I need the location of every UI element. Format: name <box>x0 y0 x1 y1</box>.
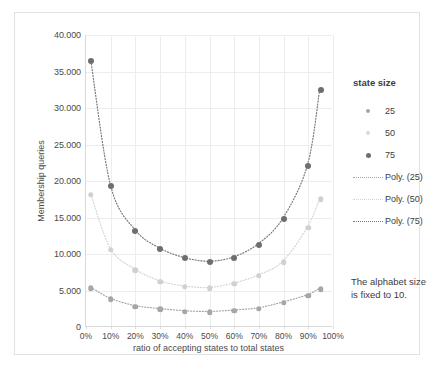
x-axis-tick-mark <box>111 326 112 329</box>
data-point <box>88 286 94 292</box>
data-point <box>306 293 312 299</box>
legend-entry[interactable]: 25 <box>351 100 431 122</box>
data-point <box>231 308 237 314</box>
y-axis-tick-label: 15.000 <box>54 213 81 223</box>
legend-marker-icon <box>351 153 385 158</box>
data-point <box>318 286 324 292</box>
x-axis-tick-mark <box>160 326 161 329</box>
x-axis-tick-mark <box>185 326 186 329</box>
data-point <box>207 310 213 316</box>
data-point <box>88 58 94 64</box>
x-axis-tick-mark <box>308 326 309 329</box>
legend-entry[interactable]: 75 <box>351 144 431 166</box>
legend: state size 255075Poly. (25)Poly. (50)Pol… <box>351 77 431 232</box>
data-point <box>182 309 188 315</box>
trendline-50 <box>91 194 320 287</box>
data-point <box>306 225 312 231</box>
x-axis-tick-mark <box>259 326 260 329</box>
y-axis-tick-label: 5.000 <box>59 286 81 296</box>
x-axis-tick-label: 80% <box>275 331 292 341</box>
x-axis-tick-label: 0% <box>80 331 92 341</box>
legend-marker-icon <box>351 131 385 136</box>
data-point <box>132 228 138 234</box>
x-axis-tick-label: 40% <box>176 331 193 341</box>
legend-line-icon <box>351 199 385 200</box>
data-point <box>157 279 163 285</box>
y-axis-tick-label: 35.000 <box>54 67 81 77</box>
legend-entry[interactable]: Poly. (25) <box>351 166 431 188</box>
data-point <box>108 183 114 189</box>
x-axis-tick-mark <box>234 326 235 329</box>
x-axis-tick-label: 10% <box>102 331 119 341</box>
data-point <box>182 284 188 290</box>
y-axis-tick-label: 10.000 <box>54 249 81 259</box>
data-point <box>281 300 287 306</box>
data-point <box>256 306 262 312</box>
legend-entry[interactable]: 50 <box>351 122 431 144</box>
legend-entries: 255075Poly. (25)Poly. (50)Poly. (75) <box>351 100 431 232</box>
x-axis-tick-label: 20% <box>127 331 144 341</box>
gridline-vertical <box>333 35 334 326</box>
x-axis-tick-label: 70% <box>250 331 267 341</box>
data-point <box>182 255 188 261</box>
trendline-75 <box>91 61 320 261</box>
legend-marker-icon <box>351 109 385 114</box>
data-point <box>305 163 311 169</box>
data-point <box>157 246 163 252</box>
legend-entry-label: 25 <box>385 106 395 116</box>
data-point <box>207 286 213 292</box>
annotation-text: The alphabet size is fixed to 10. <box>351 275 429 301</box>
legend-line-icon <box>351 221 385 222</box>
data-point <box>157 307 163 313</box>
data-point <box>133 267 139 273</box>
x-axis-title: ratio of accepting states to total state… <box>85 343 332 353</box>
data-point <box>108 297 114 303</box>
y-axis-tick-label: 30.000 <box>54 103 81 113</box>
legend-title: state size <box>351 77 431 88</box>
data-point <box>281 259 287 265</box>
data-point <box>108 247 114 253</box>
data-point <box>281 216 287 222</box>
x-axis-tick-mark <box>135 326 136 329</box>
trendline-layer <box>86 35 332 326</box>
y-axis-tick-label: 20.000 <box>54 176 81 186</box>
data-point <box>207 259 213 265</box>
legend-entry-label: Poly. (75) <box>385 216 423 226</box>
trendline-25 <box>91 287 320 311</box>
x-axis-tick-label: 50% <box>201 331 218 341</box>
legend-entry-label: Poly. (50) <box>385 194 423 204</box>
x-axis-tick-mark <box>86 326 87 329</box>
legend-entry-label: 75 <box>385 150 395 160</box>
x-axis-tick-label: 30% <box>152 331 169 341</box>
data-point <box>256 273 262 279</box>
data-point <box>318 197 324 203</box>
x-axis-tick-mark <box>284 326 285 329</box>
y-axis-title: Membership queries <box>36 140 46 222</box>
data-point <box>256 242 262 248</box>
data-point <box>318 87 324 93</box>
data-point <box>88 192 94 198</box>
plot-area: 05.00010.00015.00020.00025.00030.00035.0… <box>85 35 332 327</box>
x-axis-tick-mark <box>210 326 211 329</box>
x-axis-tick-label: 100% <box>322 331 344 341</box>
data-point <box>231 281 237 287</box>
data-point <box>231 255 237 261</box>
legend-entry-label: 50 <box>385 128 395 138</box>
x-axis-tick-mark <box>333 326 334 329</box>
x-axis-tick-label: 60% <box>226 331 243 341</box>
legend-entry[interactable]: Poly. (75) <box>351 210 431 232</box>
chart-container: Membership queries 05.00010.00015.00020.… <box>14 12 420 355</box>
legend-entry[interactable]: Poly. (50) <box>351 188 431 210</box>
x-axis-tick-label: 90% <box>300 331 317 341</box>
y-axis-tick-label: 25.000 <box>54 140 81 150</box>
legend-line-icon <box>351 177 385 178</box>
legend-entry-label: Poly. (25) <box>385 172 423 182</box>
y-axis-tick-label: 40.000 <box>54 30 81 40</box>
data-point <box>133 304 139 310</box>
